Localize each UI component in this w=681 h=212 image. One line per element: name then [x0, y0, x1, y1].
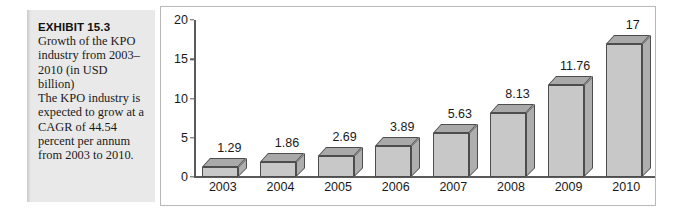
bar-front-face [606, 44, 642, 177]
exhibit-title: EXHIBIT 15.3 [38, 21, 146, 33]
bar-column[interactable]: 8.13 [490, 20, 526, 177]
bar-3d[interactable] [548, 85, 584, 177]
bar-top-face [318, 147, 362, 156]
bar-column[interactable]: 2.69 [318, 20, 354, 177]
bar-front-face [548, 85, 584, 177]
bar-3d[interactable] [490, 113, 526, 177]
bar-column[interactable]: 17 [606, 20, 642, 177]
x-tick-label: 2004 [252, 180, 310, 194]
bar-value-label: 11.76 [557, 59, 593, 73]
y-tick-label: 15 [161, 52, 188, 66]
exhibit-description-line-2: The KPO industry is expected to grow at … [38, 91, 146, 162]
bar-3d[interactable] [606, 44, 642, 177]
bar-3d[interactable] [433, 133, 469, 177]
bar-value-label: 2.69 [327, 130, 363, 144]
exhibit-description-line-1: Growth of the KPO industry from 2003–201… [38, 34, 146, 91]
bar-3d[interactable] [260, 162, 296, 177]
bar-3d[interactable] [202, 167, 238, 177]
bar-column[interactable]: 1.86 [260, 20, 296, 177]
x-tick-label: 2006 [367, 180, 425, 194]
bar-side-face [642, 35, 651, 177]
bar-series: 1.291.862.693.895.638.1311.7617 [194, 20, 655, 177]
bar-front-face [260, 162, 296, 177]
bar-front-face [202, 167, 238, 177]
bar-front-face [433, 133, 469, 177]
bar-column[interactable]: 1.29 [202, 20, 238, 177]
bar-value-label: 1.29 [211, 141, 247, 155]
bar-value-label: 3.89 [384, 120, 420, 134]
bar-column[interactable]: 5.63 [433, 20, 469, 177]
exhibit-figure: EXHIBIT 15.3 Growth of the KPO industry … [0, 0, 681, 212]
x-tick-label: 2009 [540, 180, 598, 194]
bar-side-face [584, 76, 593, 177]
x-tick-label: 2003 [194, 180, 252, 194]
bar-chart-plot: 05101520 1.291.862.693.895.638.1311.7617… [161, 7, 655, 205]
bar-column[interactable]: 3.89 [375, 20, 411, 177]
bar-side-face [469, 124, 478, 177]
bar-value-label: 17 [615, 18, 651, 32]
bar-value-label: 1.86 [269, 136, 305, 150]
y-tick-label: 20 [161, 13, 188, 27]
bar-column[interactable]: 11.76 [548, 20, 584, 177]
bar-side-face [526, 104, 535, 177]
x-tick-label: 2005 [309, 180, 367, 194]
bar-front-face [318, 156, 354, 177]
exhibit-description: Growth of the KPO industry from 2003–201… [38, 34, 146, 163]
bar-top-face [433, 124, 477, 133]
exhibit-caption-panel: EXHIBIT 15.3 Growth of the KPO industry … [27, 10, 155, 202]
bar-3d[interactable] [318, 156, 354, 177]
bar-value-label: 8.13 [499, 87, 535, 101]
x-tick-label: 2010 [597, 180, 655, 194]
y-tick-label: 10 [161, 92, 188, 106]
bar-top-face [606, 35, 650, 44]
y-tick-label: 5 [161, 131, 188, 145]
x-tick-label: 2007 [425, 180, 483, 194]
bar-front-face [375, 146, 411, 177]
y-tick-label: 0 [161, 170, 188, 184]
bar-value-label: 5.63 [442, 107, 478, 121]
bar-3d[interactable] [375, 146, 411, 177]
x-tick-label: 2008 [482, 180, 540, 194]
bar-front-face [490, 113, 526, 177]
chart-panel: 05101520 1.291.862.693.895.638.1311.7617… [160, 6, 656, 206]
